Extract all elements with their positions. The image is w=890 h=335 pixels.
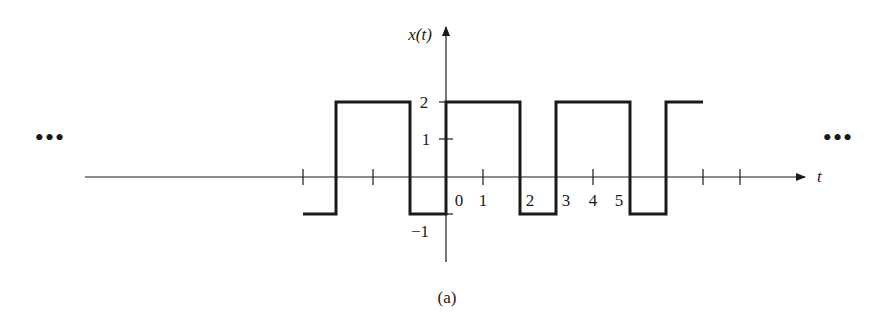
x-tick-label-2: 2: [526, 191, 535, 210]
y-tick-label-1: 1: [422, 130, 431, 149]
y-tick-label-2: 2: [420, 93, 429, 112]
x-tick-label-5: 5: [615, 191, 624, 210]
signal-waveform: [303, 102, 703, 214]
figure-caption: (a): [438, 288, 457, 307]
signal-figure: 2 1 −1 0 1 2 3 4 5 x(t) t ••• ••• (a): [0, 0, 890, 335]
x-tick-label-3: 3: [562, 191, 571, 210]
x-tick-label-1: 1: [479, 191, 488, 210]
y-axis-label: x(t): [407, 25, 432, 44]
ellipsis-right: •••: [823, 123, 853, 152]
ellipsis-left: •••: [35, 123, 65, 152]
y-tick-label-neg1: −1: [411, 222, 429, 241]
x-tick-label-0: 0: [455, 191, 464, 210]
x-tick-label-4: 4: [589, 191, 598, 210]
x-axis-label: t: [817, 167, 823, 186]
